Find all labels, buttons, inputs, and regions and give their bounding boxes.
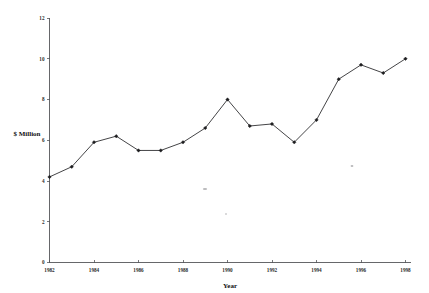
y-axis-title: $ Million xyxy=(13,130,40,138)
x-axis-title-group: Year xyxy=(223,282,237,290)
y-tick-label: 2 xyxy=(42,219,45,225)
line-chart: 024681012 198219841986198819901992199419… xyxy=(0,0,429,293)
x-tick-label: 1988 xyxy=(178,267,189,273)
y-tick-label: 10 xyxy=(39,56,45,62)
y-tick-label: 0 xyxy=(42,259,45,265)
x-axis-title: Year xyxy=(223,282,237,290)
x-tick-label: 1996 xyxy=(356,267,367,273)
x-tick-label: 1982 xyxy=(44,267,55,273)
plot-background xyxy=(0,0,429,293)
x-tick-label: 1990 xyxy=(222,267,233,273)
y-tick-label: 8 xyxy=(42,96,45,102)
x-tick-label: 1984 xyxy=(89,267,100,273)
chart-canvas: 024681012 198219841986198819901992199419… xyxy=(0,0,429,293)
x-tick-label: 1992 xyxy=(267,267,278,273)
x-tick-label: 1994 xyxy=(311,267,322,273)
y-tick-label: 12 xyxy=(39,15,45,21)
y-axis-title-group: $ Million xyxy=(13,130,40,138)
x-tick-label: 1998 xyxy=(400,267,411,273)
x-tick-label: 1986 xyxy=(133,267,144,273)
y-tick-label: 6 xyxy=(42,137,45,143)
y-tick-label: 4 xyxy=(42,178,45,184)
